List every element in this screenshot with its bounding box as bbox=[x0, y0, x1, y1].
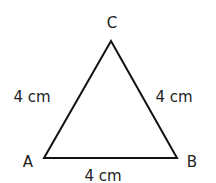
vertex-label-c: C bbox=[107, 14, 117, 32]
side-label-ab: 4 cm bbox=[84, 167, 121, 183]
side-label-cb: 4 cm bbox=[155, 88, 192, 106]
vertex-label-b: B bbox=[187, 153, 197, 171]
side-label-ac: 4 cm bbox=[13, 88, 50, 106]
triangle-diagram: C A B 4 cm 4 cm 4 cm bbox=[0, 0, 216, 183]
vertex-label-a: A bbox=[23, 153, 34, 171]
